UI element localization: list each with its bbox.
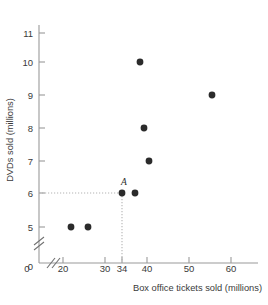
point-label-a: A	[120, 177, 127, 187]
data-points-group	[68, 59, 216, 231]
data-point	[132, 190, 139, 197]
y-tick-label-8: 8	[28, 123, 33, 134]
scatter-plot-figure: 11 10 9 8 7 6 5 0 0 20 30 34 40 50 60	[0, 0, 268, 305]
x-axis-title: Box office tickets sold (millions)	[133, 283, 262, 293]
x-tick-label-40: 40	[142, 263, 153, 274]
x-tick-label-0: 0	[24, 263, 29, 274]
data-point	[146, 158, 153, 165]
y-tick-label-6: 6	[28, 188, 33, 199]
y-axis-title: DVDs sold (millions)	[5, 98, 15, 182]
y-tick-label-10: 10	[22, 57, 33, 68]
data-point-a	[119, 190, 126, 197]
y-axis-ticks	[39, 33, 45, 227]
y-tick-label-7: 7	[28, 156, 33, 167]
plot-canvas: 11 10 9 8 7 6 5 0 0 20 30 34 40 50 60	[0, 0, 268, 305]
x-tick-label-20: 20	[58, 263, 69, 274]
data-point	[209, 92, 216, 99]
x-tick-label-34: 34	[117, 263, 128, 274]
y-tick-label-5: 5	[28, 222, 33, 233]
x-tick-label-50: 50	[184, 263, 195, 274]
data-point	[68, 224, 75, 231]
y-tick-label-11: 11	[23, 28, 33, 39]
data-point	[137, 59, 144, 66]
x-tick-label-60: 60	[226, 263, 237, 274]
y-tick-label-9: 9	[28, 90, 33, 101]
x-tick-label-30: 30	[100, 263, 111, 274]
data-point	[141, 125, 148, 132]
data-point	[85, 224, 92, 231]
